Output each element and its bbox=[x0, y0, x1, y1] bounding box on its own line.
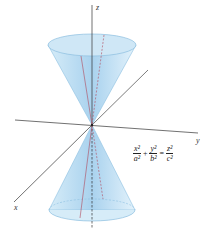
y-axis bbox=[15, 120, 198, 133]
x-axis-label: x bbox=[13, 203, 18, 212]
equation-term-y: y² b² bbox=[149, 144, 157, 163]
double-cone-diagram: z y x bbox=[0, 0, 215, 233]
equation-term-z: z² c² bbox=[166, 144, 174, 163]
lower-nappe bbox=[49, 125, 135, 228]
cone-equation: x² a² + y² b² = z² c² bbox=[133, 144, 173, 163]
equation-term-x: x² a² bbox=[133, 144, 141, 163]
z-axis-label: z bbox=[95, 3, 100, 12]
origin-vertex bbox=[91, 124, 93, 126]
y-axis-label: y bbox=[195, 136, 200, 145]
upper-nappe bbox=[48, 5, 136, 125]
